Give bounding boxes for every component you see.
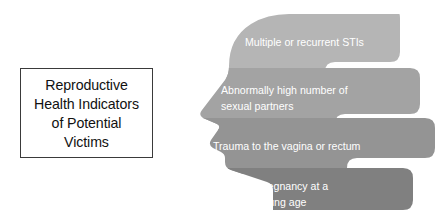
head-profile-diagram: Multiple or recurrent STIs Abnormally hi… [185, 8, 438, 220]
head-band-2-label-line-2: sexual partners [221, 100, 293, 112]
title-line-2: Health Indicators [34, 95, 139, 114]
title-line-3: of Potential [52, 114, 122, 133]
head-band-4-label-line-1: Pregnancy at a [257, 180, 328, 192]
title-box: Reproductive Health Indicators of Potent… [20, 68, 153, 158]
head-band-4-fill [185, 168, 438, 220]
title-line-1: Reproductive [45, 76, 127, 95]
head-band-4 [185, 168, 438, 220]
title-line-4: Victims [64, 133, 109, 152]
head-band-3-label-line-1: Trauma to the vagina or rectum [213, 140, 361, 152]
head-band-4-label-line-2: young age [257, 196, 307, 208]
slide-canvas: Reproductive Health Indicators of Potent… [0, 0, 438, 224]
head-band-1-label-line-1: Multiple or recurrent STIs [245, 36, 364, 48]
head-band-2-label-line-1: Abnormally high number of [221, 84, 348, 96]
